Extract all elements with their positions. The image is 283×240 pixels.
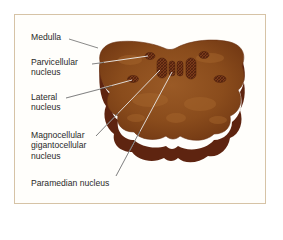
magnocellular-nucleus-left [157,58,167,78]
parvicellular-nucleus-right [199,52,209,59]
paramedian-nucleus-left [169,61,175,76]
medulla-top-surface [99,40,244,140]
lateral-nucleus-left [128,76,139,83]
label-parvicellular-nucleus: Parvicellular nucleus [31,57,78,78]
label-medulla: Medulla [31,32,61,42]
label-paramedian-nucleus: Paramedian nucleus [31,178,109,188]
magnocellular-nucleus-right [186,58,196,79]
medulla-leader [69,39,98,48]
lateral-nucleus-right [214,76,226,83]
label-magnocellular-gigantocellular-nucleus: Magnocellular gigantocellular nucleus [31,130,86,161]
paramedian-nucleus-right [177,61,183,76]
label-lateral-nucleus: Lateral nucleus [31,92,61,113]
